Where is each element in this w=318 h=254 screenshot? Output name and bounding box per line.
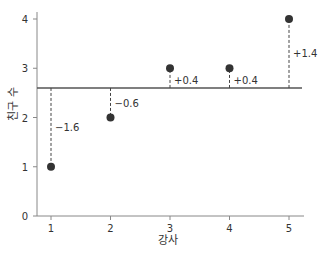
y-tick-label: 3 bbox=[22, 63, 28, 74]
x-tick-label: 3 bbox=[167, 223, 173, 234]
deviation-lines bbox=[51, 19, 289, 167]
data-point bbox=[47, 163, 55, 171]
y-tick-label: 2 bbox=[22, 113, 28, 124]
y-tick-label: 1 bbox=[22, 162, 28, 173]
data-point bbox=[166, 64, 174, 72]
y-ticks: 01234 bbox=[22, 14, 37, 222]
data-point bbox=[107, 114, 115, 122]
data-point bbox=[226, 64, 234, 72]
x-tick-label: 5 bbox=[286, 223, 292, 234]
deviation-label: +0.4 bbox=[174, 75, 198, 86]
x-tick-label: 4 bbox=[226, 223, 232, 234]
deviation-chart: 01234 12345 −1.6−0.6+0.4+0.4+1.4 강사 친구 수 bbox=[0, 0, 318, 254]
x-tick-label: 2 bbox=[107, 223, 113, 234]
deviation-label: +0.4 bbox=[234, 75, 258, 86]
deviation-label: +1.4 bbox=[293, 48, 317, 59]
data-point bbox=[285, 15, 293, 23]
y-axis-label: 친구 수 bbox=[7, 87, 20, 121]
data-points bbox=[47, 15, 293, 171]
deviation-label: −0.6 bbox=[115, 98, 139, 109]
y-tick-label: 0 bbox=[22, 211, 28, 222]
x-axis-label: 강사 bbox=[158, 234, 178, 247]
y-tick-label: 4 bbox=[22, 14, 28, 25]
deviation-label: −1.6 bbox=[55, 122, 79, 133]
x-tick-label: 1 bbox=[48, 223, 54, 234]
deviation-labels: −1.6−0.6+0.4+0.4+1.4 bbox=[55, 48, 317, 133]
x-ticks: 12345 bbox=[48, 216, 292, 234]
